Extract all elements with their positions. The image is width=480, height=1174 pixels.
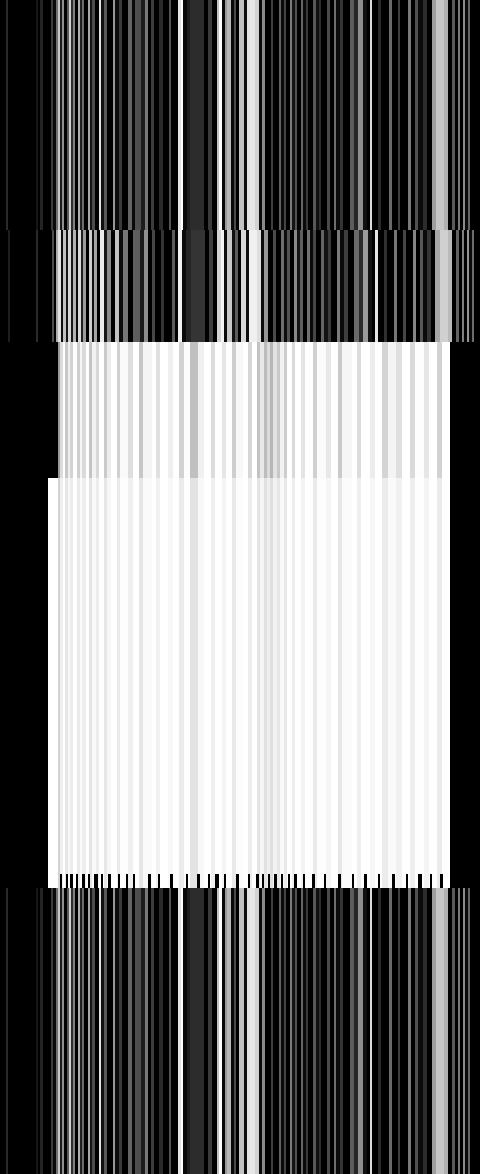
glitch-stripe	[440, 230, 448, 342]
glitch-stripe	[429, 342, 437, 478]
glitch-stripe	[247, 888, 255, 1174]
glitch-stripe	[388, 342, 396, 478]
central-white-block-upper	[58, 342, 450, 478]
glitch-tick	[294, 874, 297, 888]
glitch-stripe	[249, 230, 257, 342]
glitch-stripe	[400, 0, 408, 230]
glitch-tick	[268, 874, 270, 888]
glitch-stripe	[160, 478, 168, 888]
glitch-stripe	[247, 0, 255, 230]
glitch-stripe	[8, 0, 36, 230]
glitch-tick	[224, 874, 226, 888]
glitch-tick	[248, 874, 250, 888]
glitch-stripe	[38, 230, 52, 342]
glitch-stripe	[215, 342, 222, 478]
glitch-stripe	[361, 478, 370, 888]
glitch-stripe	[375, 478, 382, 888]
glitch-stripe	[160, 342, 168, 478]
glitch-tick	[312, 874, 315, 888]
glitch-tick	[82, 874, 85, 888]
glitch-tick	[392, 874, 395, 888]
glitch-tick	[186, 874, 188, 888]
upper-mid-band	[0, 230, 480, 342]
glitch-tick	[215, 874, 219, 888]
glitch-stripe	[436, 888, 444, 1174]
glitch-stripe	[305, 342, 313, 478]
glitch-tick	[406, 874, 408, 888]
glitch-stripe	[400, 888, 408, 1174]
glitch-tick	[324, 874, 326, 888]
glitch-stripe	[361, 342, 370, 478]
glitch-stripe	[190, 478, 198, 888]
glitch-stripe	[190, 888, 204, 1174]
glitch-tick	[281, 874, 283, 888]
central-white-block-lower	[48, 478, 450, 888]
glitch-stripe	[10, 230, 36, 342]
glitch-stripe	[171, 888, 178, 1174]
glitch-stripe	[415, 478, 424, 888]
top-dark-band	[0, 0, 480, 230]
glitch-stripe	[43, 888, 51, 1174]
glitch-tick	[338, 874, 341, 888]
glitch-tick	[148, 874, 151, 888]
glitch-stripe	[317, 478, 326, 888]
glitch-tick	[352, 874, 354, 888]
glitch-tick	[101, 874, 103, 888]
glitch-stripe	[406, 230, 413, 342]
glitch-stripe	[442, 342, 450, 478]
glitch-stripe	[164, 230, 172, 342]
glitch-tick	[60, 874, 62, 888]
glitch-tick	[256, 874, 259, 888]
glitch-stripe	[236, 342, 243, 478]
glitch-tick	[170, 874, 173, 888]
glitch-stripe	[381, 0, 389, 230]
glitch-stripe	[317, 342, 326, 478]
glitch-stripe	[342, 342, 352, 478]
glitch-tick	[126, 874, 128, 888]
glitch-stripe	[474, 230, 480, 342]
glitch-stripe	[381, 888, 389, 1174]
glitch-tick	[88, 874, 90, 888]
glitch-stripe	[171, 0, 178, 230]
glitch-tick	[108, 874, 111, 888]
glitch-stripe	[470, 0, 480, 230]
glitch-stripe	[190, 342, 198, 478]
glitch-stripe	[120, 342, 128, 478]
glitch-stripe	[191, 230, 205, 342]
glitch-tick	[76, 874, 78, 888]
glitch-stripe	[436, 0, 444, 230]
glitch-tick	[364, 874, 367, 888]
glitch-tick	[236, 874, 239, 888]
glitch-stripe	[305, 478, 313, 888]
glitch-stripe	[343, 0, 350, 230]
glitch-stripe	[342, 478, 352, 888]
glitch-tick	[274, 874, 277, 888]
glitch-stripe	[343, 888, 350, 1174]
glitch-stripe	[429, 478, 437, 888]
glitch-tick	[303, 874, 305, 888]
corrupted-screenshot-canvas	[0, 0, 480, 1174]
glitch-stripe	[331, 478, 338, 888]
glitch-stripe	[375, 342, 382, 478]
glitch-stripe	[190, 0, 204, 230]
glitch-tick	[94, 874, 98, 888]
glitch-stripe	[442, 478, 450, 888]
glitch-stripe	[120, 478, 128, 888]
glitch-tick	[418, 874, 422, 888]
glitch-stripe	[204, 478, 211, 888]
glitch-tick	[197, 874, 200, 888]
glitch-stripe	[415, 342, 424, 478]
glitch-stripe	[215, 478, 222, 888]
glitch-stripe	[204, 342, 211, 478]
glitch-tick	[262, 874, 264, 888]
glitch-tick	[288, 874, 290, 888]
glitch-stripe	[402, 342, 410, 478]
glitch-tick	[430, 874, 432, 888]
glitch-stripe	[402, 478, 410, 888]
glitch-stripe	[143, 478, 152, 888]
glitch-tick	[158, 874, 160, 888]
glitch-stripe	[133, 230, 140, 342]
glitch-stripe	[43, 0, 51, 230]
glitch-tick	[133, 874, 135, 888]
glitch-tick	[378, 874, 380, 888]
